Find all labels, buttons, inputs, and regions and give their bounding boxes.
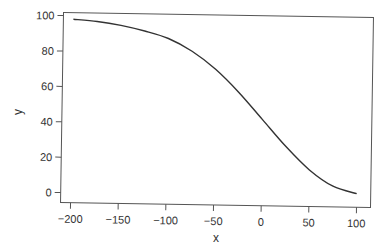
- plot-area: 020406080100 −200−150−100−50050100: [33, 9, 374, 229]
- x-tick-label: 0: [258, 216, 264, 228]
- plot-frame: [61, 13, 374, 208]
- y-tick-label: 0: [45, 186, 51, 198]
- x-tick-label: 50: [302, 216, 314, 228]
- y-tick-label: 40: [40, 115, 52, 127]
- x-tick-label: −200: [58, 213, 83, 225]
- y-tick-label: 80: [42, 45, 54, 57]
- y-axis-label: y: [11, 109, 25, 115]
- y-tick-label: 100: [36, 9, 55, 21]
- x-axis-label: x: [213, 231, 219, 245]
- y-tick-label: 60: [41, 80, 53, 92]
- x-tick-label: −100: [153, 214, 178, 226]
- x-tick-label: −50: [204, 215, 223, 227]
- x-tick-label: 100: [347, 217, 366, 229]
- data-line: [71, 19, 360, 193]
- x-tick-label: −150: [105, 213, 130, 225]
- y-tick-label: 20: [40, 151, 52, 163]
- line-chart: 020406080100 −200−150−100−50050100 x y: [0, 0, 392, 250]
- y-axis: 020406080100: [33, 9, 63, 198]
